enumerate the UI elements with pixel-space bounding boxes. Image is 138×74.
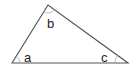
angle-arc-a — [16, 56, 20, 63]
angle-label-b: b — [47, 16, 54, 31]
triangle-diagram: a b c — [0, 0, 138, 74]
angle-arc-c — [115, 55, 118, 63]
angle-label-a: a — [24, 50, 32, 65]
angle-label-c: c — [101, 50, 108, 65]
